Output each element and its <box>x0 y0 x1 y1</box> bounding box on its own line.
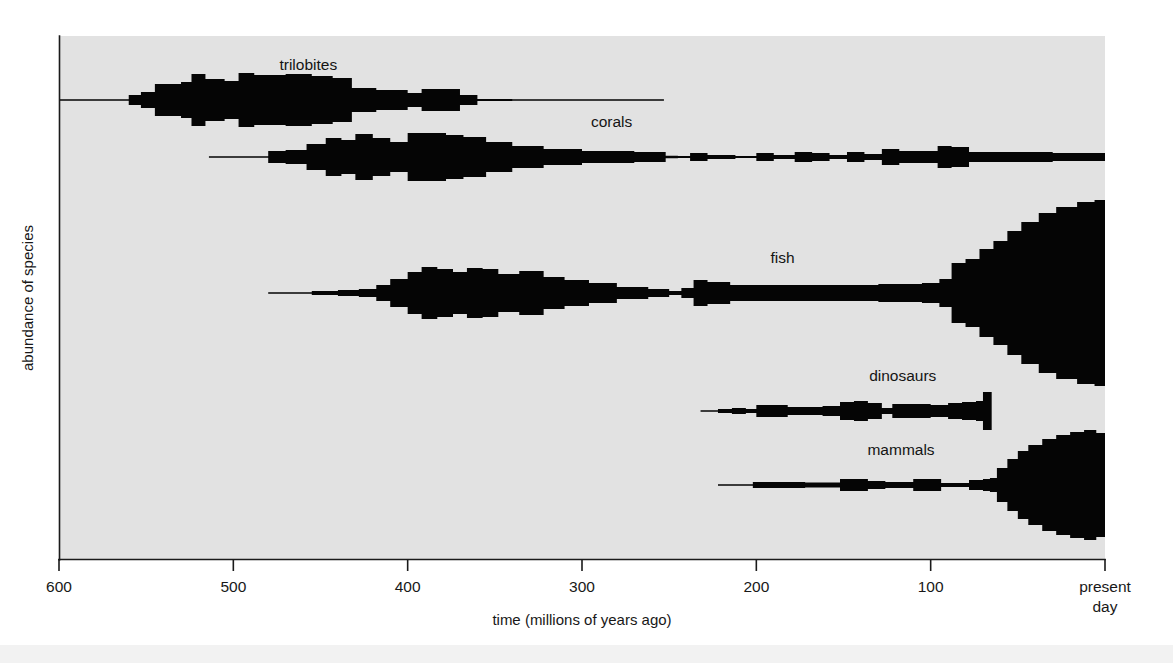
x-tick-label: 200 <box>743 578 769 595</box>
x-tick-label: 500 <box>220 578 246 595</box>
series-label-dinosaurs: dinosaurs <box>869 367 936 384</box>
evolution-abundance-chart: trilobitescoralsfishdinosaursmammals 600… <box>0 0 1173 663</box>
series-label-mammals: mammals <box>867 441 934 458</box>
series-label-trilobites: trilobites <box>279 56 337 73</box>
x-tick-label: 600 <box>46 578 72 595</box>
x-tick-label: 400 <box>395 578 421 595</box>
y-axis-title: abundance of species <box>19 225 36 371</box>
x-axis-title: time (millions of years ago) <box>492 611 671 628</box>
x-tick-label: 300 <box>569 578 595 595</box>
page-bottom-strip <box>0 645 1173 663</box>
series-label-fish: fish <box>770 249 794 266</box>
x-tick-label: 100 <box>918 578 944 595</box>
figure-page: trilobitescoralsfishdinosaursmammals 600… <box>0 0 1173 663</box>
series-label-corals: corals <box>591 113 633 130</box>
